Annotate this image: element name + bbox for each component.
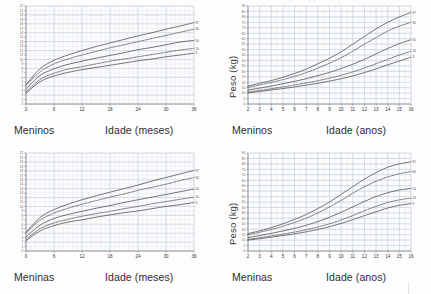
svg-text:16: 16 xyxy=(20,178,24,182)
svg-text:60: 60 xyxy=(242,184,246,188)
svg-text:9: 9 xyxy=(22,209,24,213)
svg-text:20: 20 xyxy=(242,228,246,232)
svg-text:1: 1 xyxy=(22,98,24,102)
svg-text:65: 65 xyxy=(242,179,246,183)
svg-text:75: 75 xyxy=(242,21,246,25)
svg-text:10: 10 xyxy=(196,195,200,199)
svg-text:0: 0 xyxy=(244,102,246,106)
panel-caption-sex-boys-years: Meninos xyxy=(232,124,272,136)
svg-text:2: 2 xyxy=(22,93,24,97)
svg-text:11: 11 xyxy=(20,53,23,57)
svg-text:6: 6 xyxy=(22,223,24,227)
svg-text:18: 18 xyxy=(107,254,113,259)
svg-text:0: 0 xyxy=(244,249,246,253)
svg-text:15: 15 xyxy=(397,254,403,259)
svg-text:15: 15 xyxy=(20,35,24,39)
svg-text:6: 6 xyxy=(22,76,24,80)
svg-text:18: 18 xyxy=(107,107,113,112)
svg-text:5: 5 xyxy=(244,244,246,248)
svg-text:18: 18 xyxy=(20,169,24,173)
svg-text:15: 15 xyxy=(20,182,24,186)
svg-text:3: 3 xyxy=(413,202,415,206)
svg-text:45: 45 xyxy=(242,53,246,57)
svg-text:17: 17 xyxy=(20,27,24,31)
svg-text:10: 10 xyxy=(242,238,246,242)
svg-text:50: 50 xyxy=(413,187,417,191)
svg-text:7: 7 xyxy=(305,107,308,112)
svg-text:20: 20 xyxy=(20,13,24,17)
svg-text:5: 5 xyxy=(22,227,24,231)
svg-text:3: 3 xyxy=(413,55,415,59)
svg-text:7: 7 xyxy=(305,254,308,259)
svg-text:22: 22 xyxy=(20,151,24,155)
svg-text:50: 50 xyxy=(196,39,200,43)
svg-text:24: 24 xyxy=(135,107,141,112)
svg-text:30: 30 xyxy=(163,254,169,259)
svg-text:12: 12 xyxy=(362,254,368,259)
svg-text:24: 24 xyxy=(135,254,141,259)
svg-text:17: 17 xyxy=(20,174,24,178)
svg-text:75: 75 xyxy=(242,168,246,172)
svg-text:13: 13 xyxy=(374,107,380,112)
svg-text:15: 15 xyxy=(397,107,403,112)
svg-text:35: 35 xyxy=(242,211,246,215)
svg-text:14: 14 xyxy=(385,254,391,259)
panel-caption-sex-girls-months: Meninas xyxy=(14,271,54,283)
svg-text:10: 10 xyxy=(196,47,200,51)
svg-text:10: 10 xyxy=(242,91,246,95)
svg-text:65: 65 xyxy=(242,32,246,36)
panel-caption-xtitle-boys-years: Idade (anos) xyxy=(326,124,386,136)
chart-panel-girls-years: Peso (kg) 051015202530354045505560657075… xyxy=(216,147,431,294)
svg-text:3: 3 xyxy=(22,236,24,240)
svg-text:20: 20 xyxy=(242,81,246,85)
svg-text:0: 0 xyxy=(25,107,28,112)
svg-text:5: 5 xyxy=(244,97,246,101)
svg-text:50: 50 xyxy=(196,187,200,191)
svg-text:30: 30 xyxy=(163,107,169,112)
svg-text:97: 97 xyxy=(413,11,417,15)
svg-text:11: 11 xyxy=(20,200,23,204)
panel-caption-xtitle-girls-months: Idade (meses) xyxy=(105,271,173,283)
svg-text:0: 0 xyxy=(22,249,24,253)
svg-text:6: 6 xyxy=(293,107,296,112)
svg-text:25: 25 xyxy=(242,75,246,79)
svg-text:10: 10 xyxy=(413,196,417,200)
svg-text:14: 14 xyxy=(20,187,24,191)
svg-text:50: 50 xyxy=(242,48,246,52)
svg-text:4: 4 xyxy=(270,107,273,112)
svg-text:11: 11 xyxy=(350,254,355,259)
page-edge-divider xyxy=(408,282,409,294)
svg-text:21: 21 xyxy=(20,9,24,13)
svg-text:50: 50 xyxy=(413,38,417,42)
svg-text:15: 15 xyxy=(242,86,246,90)
svg-text:2: 2 xyxy=(22,240,24,244)
svg-text:36: 36 xyxy=(191,107,197,112)
svg-text:12: 12 xyxy=(362,107,368,112)
svg-text:5: 5 xyxy=(282,107,285,112)
svg-text:30: 30 xyxy=(242,70,246,74)
svg-text:60: 60 xyxy=(242,37,246,41)
svg-text:4: 4 xyxy=(270,254,273,259)
svg-text:3: 3 xyxy=(22,89,24,93)
svg-text:25: 25 xyxy=(242,222,246,226)
svg-text:12: 12 xyxy=(20,49,24,53)
svg-text:7: 7 xyxy=(22,218,24,222)
chart-panel-boys-years: Peso (kg) 051015202530354045505560657075… xyxy=(216,0,431,147)
svg-text:16: 16 xyxy=(408,254,414,259)
svg-text:8: 8 xyxy=(317,107,320,112)
svg-text:90: 90 xyxy=(242,4,246,8)
svg-text:8: 8 xyxy=(22,67,24,71)
svg-text:55: 55 xyxy=(242,189,246,193)
svg-text:90: 90 xyxy=(196,27,200,31)
panel-caption-xtitle-boys-months: Idade (meses) xyxy=(105,124,173,136)
svg-text:19: 19 xyxy=(20,165,24,169)
svg-text:19: 19 xyxy=(20,18,24,22)
svg-text:35: 35 xyxy=(242,64,246,68)
growth-curve-plot-boys-months: 0123456789101112131415161718192021220612… xyxy=(0,0,216,120)
svg-text:70: 70 xyxy=(242,26,246,30)
svg-text:22: 22 xyxy=(20,4,24,8)
svg-text:4: 4 xyxy=(22,84,24,88)
svg-text:12: 12 xyxy=(79,107,85,112)
svg-text:90: 90 xyxy=(242,151,246,155)
svg-text:85: 85 xyxy=(242,157,246,161)
